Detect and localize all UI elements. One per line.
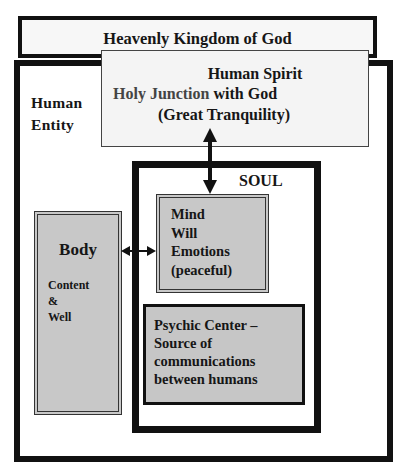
- spirit-mind-arrow-icon: [203, 128, 217, 194]
- connector-arrows: [0, 0, 405, 474]
- body-mind-arrow-icon: [121, 246, 156, 256]
